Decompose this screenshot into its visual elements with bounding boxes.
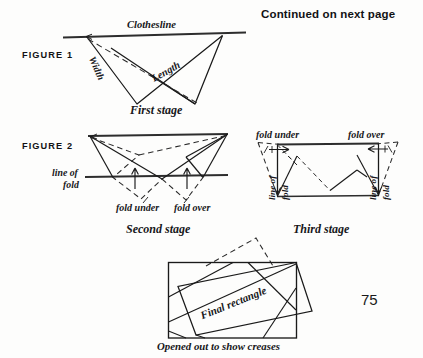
third-bottom-edge	[277, 196, 379, 197]
fold-under-label-2: fold under	[116, 203, 159, 213]
opened-dash-triangle	[206, 238, 273, 266]
fold-over-label-2: fold over	[174, 203, 210, 213]
sheet-solid-2b	[162, 135, 227, 180]
line-of-label-2: line of	[52, 168, 78, 178]
figure-2-caption: Second stage	[126, 223, 190, 235]
figure-1-caption: First stage	[130, 104, 182, 116]
figure-4-caption: Opened out to show creases	[157, 341, 280, 352]
third-crease-dash-b	[297, 156, 330, 191]
figure-2-artwork	[85, 134, 228, 203]
fold-arrow-right-2	[184, 168, 191, 189]
continued-note: Continued on next page	[261, 9, 395, 21]
figure-1-label: FIGURE 1	[22, 51, 73, 60]
third-crease-v-solid	[330, 170, 357, 191]
crease-line-d	[263, 288, 296, 338]
fold-dash-2-long	[139, 136, 226, 156]
fold-over-label-3: fold over	[348, 130, 384, 140]
figure-3-caption: Third stage	[293, 223, 349, 235]
third-flap-right-top-dash	[377, 142, 398, 144]
figure-4-artwork	[169, 238, 313, 338]
sheet-solid-2d	[186, 157, 203, 178]
crease-line-a	[169, 263, 234, 298]
clothesline-rule-2	[88, 134, 228, 136]
fold-under-dash-2	[91, 138, 162, 200]
line-of-label-3-left: line of	[268, 176, 277, 200]
third-top-edge	[277, 144, 379, 145]
sheet-solid-2a	[90, 136, 162, 179]
fold-label-3-right: fold	[382, 185, 391, 200]
book-page: Continued on next page FIGURE 1 Clothesl…	[0, 0, 423, 358]
fold-arrow-left-2	[132, 168, 139, 189]
fold-under-label-3: fold under	[256, 130, 299, 140]
crease-line-b	[169, 264, 297, 322]
crease-line-e	[169, 331, 187, 338]
third-flick-right	[388, 146, 392, 153]
figure-2-label: FIGURE 2	[22, 142, 73, 151]
fold-label-2: fold	[63, 180, 79, 190]
fold-label-3-left: fold	[281, 185, 290, 200]
line-of-label-3-right: line of	[369, 176, 378, 200]
fold-over-dash-2	[162, 178, 203, 201]
third-flap-left-top-dash	[258, 143, 279, 145]
clothesline-label: Clothesline	[127, 20, 176, 31]
sheet-outline-left	[87, 36, 223, 105]
page-number: 75	[361, 292, 378, 307]
third-flick-left	[264, 146, 268, 153]
